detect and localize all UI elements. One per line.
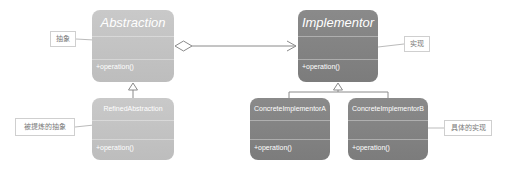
operation: +operation() <box>92 60 174 74</box>
note-text: 实现 <box>410 40 424 47</box>
attributes-section <box>250 121 330 139</box>
note-text: 被提炼的抽象 <box>24 123 66 130</box>
class-name: RefinedAbstraction <box>92 98 174 120</box>
class-name: ConcreteImplementorB <box>348 98 428 120</box>
class-name: Abstraction <box>92 10 174 36</box>
note-refined-abstraction: 被提炼的抽象 <box>15 118 75 136</box>
class-name: Implementor <box>298 10 378 36</box>
aggregation-association <box>175 41 296 51</box>
generalization-concrete <box>289 83 388 98</box>
inheritance-triangle-icon <box>129 83 138 90</box>
operation: +operation() <box>298 60 378 74</box>
class-implementor[interactable]: Implementor +operation() <box>298 10 378 82</box>
class-refined-abstraction[interactable]: RefinedAbstraction +operation() <box>92 98 174 160</box>
note-abstraction: 抽象 <box>50 31 76 47</box>
class-name: ConcreteImplementorA <box>250 98 330 120</box>
operation: +operation() <box>250 140 330 156</box>
note-concrete-implementor: 具体的实现 <box>444 120 492 136</box>
attributes-section <box>92 37 174 59</box>
note-text: 抽象 <box>56 35 70 42</box>
attributes-section <box>298 37 378 59</box>
attributes-section <box>348 121 428 139</box>
diamond-icon <box>175 41 192 51</box>
inheritance-triangle-icon <box>334 83 343 90</box>
operation: +operation() <box>92 140 174 156</box>
attributes-section <box>92 121 174 139</box>
note-connector-implementor <box>378 44 404 47</box>
class-abstraction[interactable]: Abstraction +operation() <box>92 10 174 82</box>
generalization-refined <box>129 83 138 98</box>
operation: +operation() <box>348 140 428 156</box>
class-concrete-implementor-b[interactable]: ConcreteImplementorB +operation() <box>348 98 428 160</box>
note-text: 具体的实现 <box>451 124 486 131</box>
class-concrete-implementor-a[interactable]: ConcreteImplementorA +operation() <box>250 98 330 160</box>
note-implementor: 实现 <box>404 36 430 52</box>
